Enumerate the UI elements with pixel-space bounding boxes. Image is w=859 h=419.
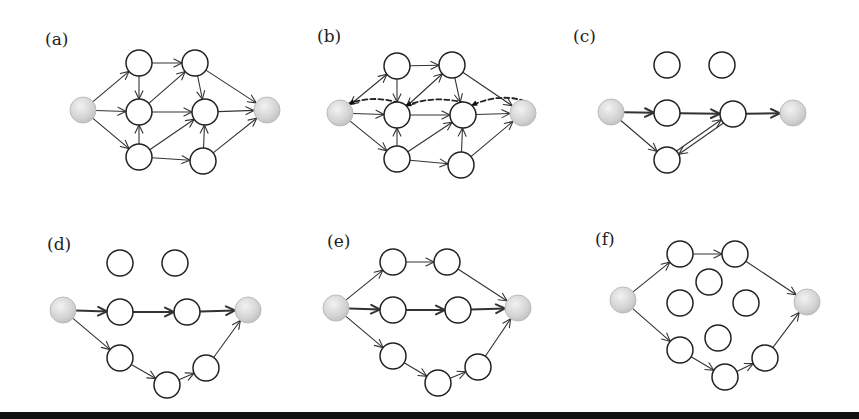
edge-s-b1 [624,112,654,113]
arrowhead-icon [705,363,714,371]
graph-node [654,147,680,173]
graph-node [380,343,406,369]
graph-node [192,99,218,125]
graph-node [448,152,474,178]
sink-node [235,297,261,323]
source-node [327,100,353,126]
edge-b2-c1 [679,123,724,154]
panel-a: (a) [45,29,280,174]
graph-node [190,148,216,174]
graph-node [126,50,152,76]
panel-f: (f) [595,229,820,390]
graph-node [425,370,451,396]
edge-a2-t [746,261,796,295]
edge-s-c1 [346,316,383,347]
edge-s-b1 [96,110,126,111]
edge-b1-b2 [680,113,720,114]
panel-d: (d) [47,234,261,398]
graph-node [696,269,722,295]
edge-c3-t [214,321,241,358]
graph-node [439,52,465,78]
panel-label: (e) [327,231,350,251]
graph-node [667,290,693,316]
edge-a2-t [206,70,256,103]
sink-node [510,100,536,126]
edge-a2-t [463,72,512,105]
graph-node [434,249,460,275]
edge-b2-t [746,113,780,114]
source-node [50,297,76,323]
graph-node [720,101,746,127]
panel-e: (e) [323,231,531,396]
network-flow-figure: (a)(b)(c)(d)(e)(f) [0,0,859,419]
graph-node [384,146,410,172]
graph-node [450,102,476,128]
edge-c1-c2 [131,364,155,378]
graph-node [126,144,152,170]
panel-label: (a) [45,29,68,49]
sink-node [254,97,280,123]
edge-b2-t [218,110,254,111]
graph-node [654,52,680,78]
edge-s-c1 [93,118,129,148]
bottom-border-band [0,412,859,419]
source-node [323,295,349,321]
sink-node [794,289,820,315]
source-node [598,99,624,125]
panel-label: (b) [317,26,341,46]
graph-node [107,345,133,371]
edge-s-b1 [76,310,107,311]
panel-label: (c) [573,26,596,46]
edge-c1-c2 [691,357,714,371]
edge-s-a1 [633,262,670,292]
arrowhead-icon [498,293,507,301]
graph-node [705,325,731,351]
graph-node [654,100,680,126]
edge-a1-a2 [410,65,439,66]
edge-b1-a2 [149,72,185,104]
graph-node [107,299,133,325]
arrowhead-icon [247,95,256,103]
arrowhead-icon [418,369,427,377]
arrowhead-icon [147,371,156,378]
edge-s-a1 [93,71,129,101]
edge-c3-t [773,312,799,347]
panel-c: (c) [573,26,806,173]
graph-node [752,345,778,371]
edge-c2-b2 [462,128,463,152]
edge-c1-c2 [152,158,190,160]
sink-node [505,295,531,321]
edge-c1-c2 [404,363,427,377]
graph-node [667,337,693,363]
edge-s-b1 [353,113,384,114]
panels-group: (a)(b)(c)(d)(e)(f) [45,26,820,398]
graph-node [733,290,759,316]
edge-s-c1 [621,120,657,151]
edge-s-c1 [73,318,110,349]
edge-s-c1 [633,309,670,342]
graph-node [709,52,735,78]
graph-node [445,297,471,323]
graph-node [712,364,738,390]
graph-node [182,50,208,76]
edge-c1-b2 [408,122,452,152]
graph-node [380,249,406,275]
graph-node [465,354,491,380]
edge-b2-t [476,113,510,114]
panel-b: (b) [317,26,536,178]
graph-node [384,102,410,128]
edge-b2-t [471,308,505,309]
panel-label: (f) [595,229,615,249]
graph-node [107,250,133,276]
graph-node [667,241,693,267]
edge-s-b1 [349,308,380,309]
source-node [610,287,636,313]
edge-s-a1 [346,270,383,300]
graph-node [384,53,410,79]
graph-node [154,372,180,398]
edge-a2-t [458,269,507,301]
graph-node [722,241,748,267]
graph-node [162,250,188,276]
graph-node [380,297,406,323]
source-node [70,97,96,123]
